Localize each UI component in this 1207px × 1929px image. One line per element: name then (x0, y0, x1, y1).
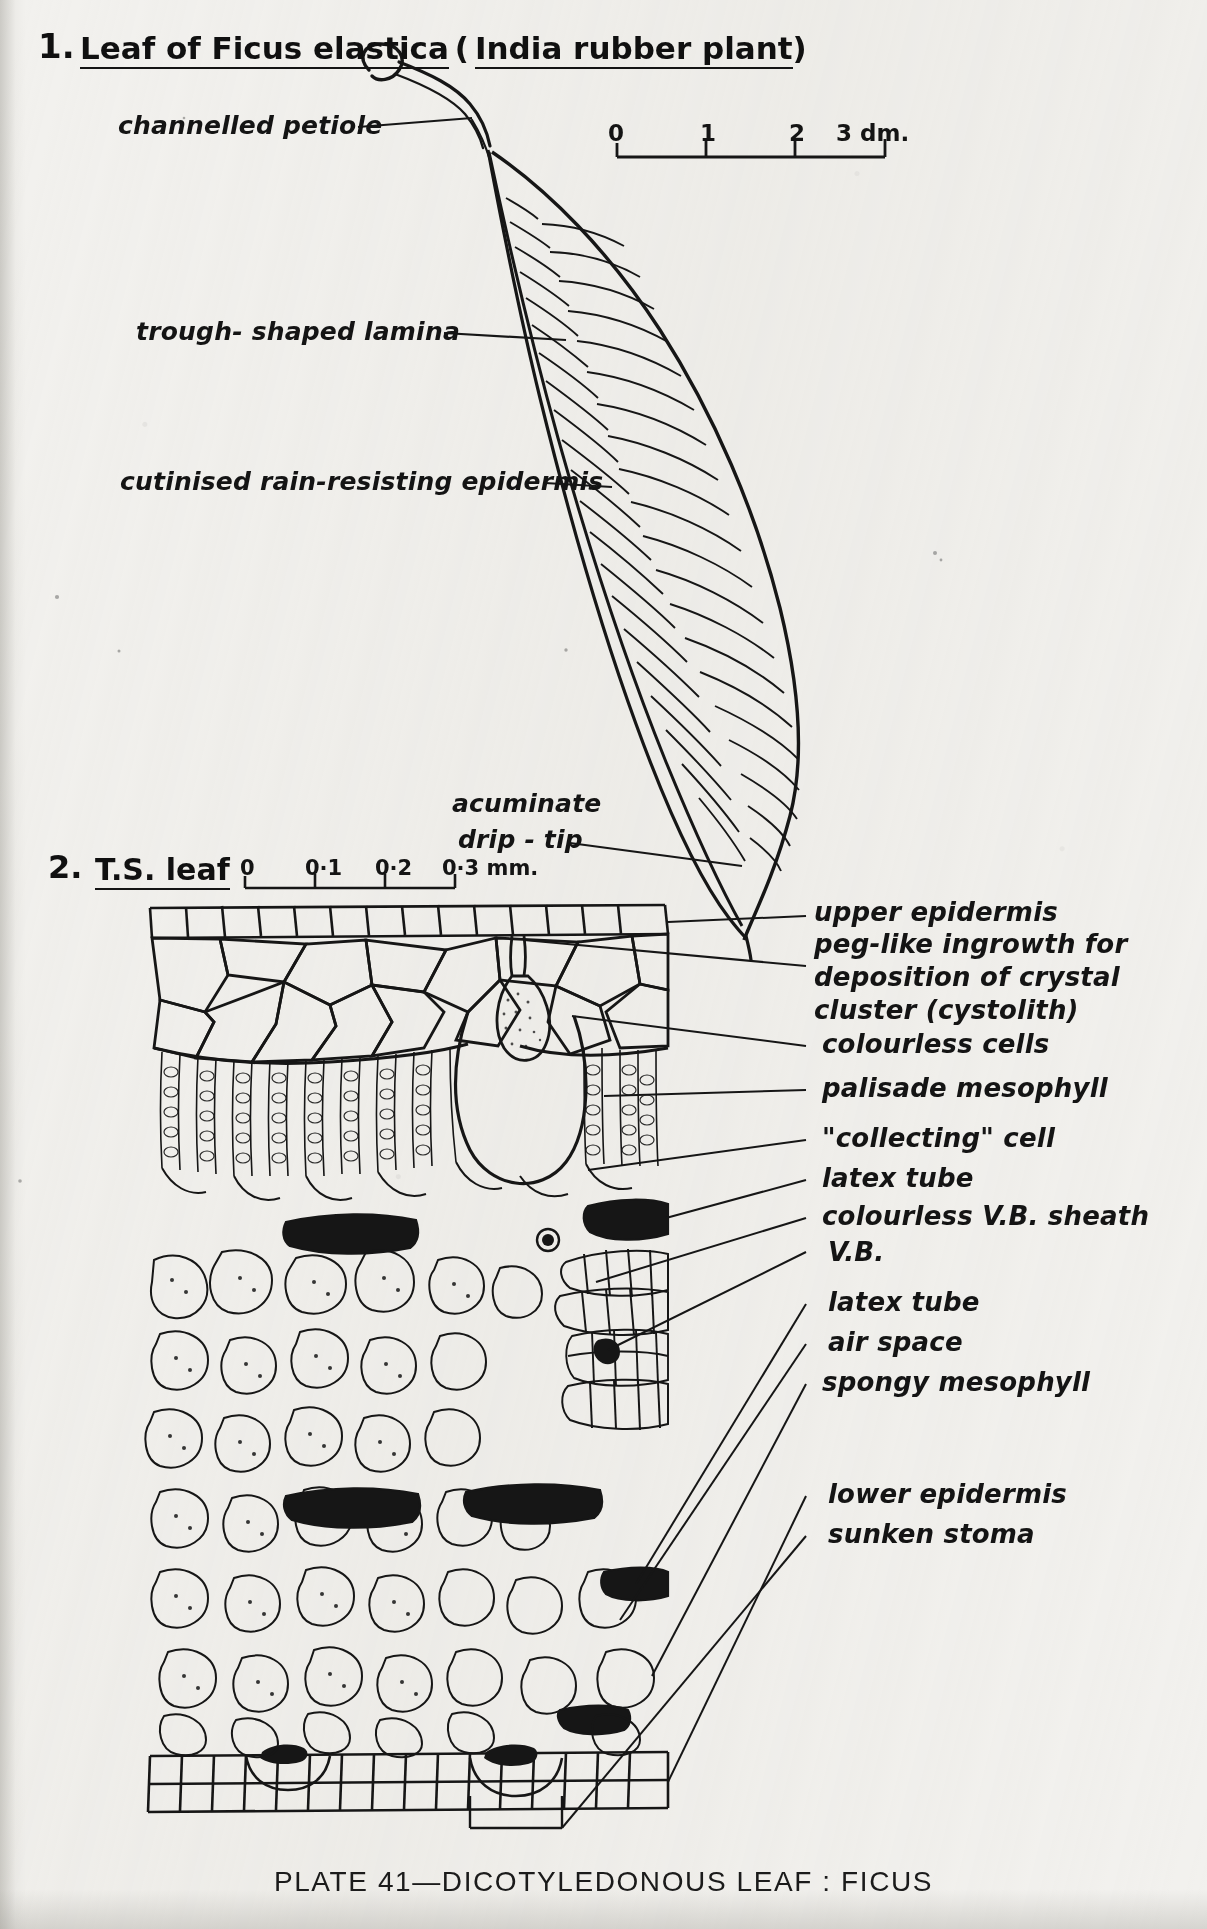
leader-peg-like-ingrowth (524, 940, 806, 966)
leader-air-space (620, 1344, 806, 1620)
label-upper-epidermis: upper epidermis (814, 898, 1058, 927)
label-colourless-cells: colourless cells (822, 1030, 1049, 1059)
vb-core (566, 1330, 668, 1386)
page-crease (0, 0, 26, 1929)
figure1-title-common: India rubber plant (475, 30, 793, 69)
label-drip-tip: drip - tip (458, 826, 583, 854)
label-palisade-mesophyll: palisade mesophyll (822, 1074, 1108, 1103)
label-acuminate: acuminate (452, 790, 601, 818)
vb-sheath-cells (555, 1249, 668, 1335)
figure1-title-species: Leaf of Ficus elastica (80, 30, 449, 69)
figure1-scale-tick-1: 1 (700, 120, 716, 146)
latex-tube-upper-shape (283, 1214, 418, 1254)
label-channelled-petiole: channelled petiole (118, 112, 382, 140)
leader-latex-tube-lower (636, 1304, 806, 1584)
figure2-title: T.S. leaf (95, 852, 230, 887)
figure1-scale-tick-2: 2 (789, 120, 805, 146)
colourless-cells-layer (152, 934, 668, 1062)
plate-page: 1. Leaf of Ficus elastica(India rubber p… (0, 0, 1207, 1929)
leader-sunken-stoma (562, 1536, 806, 1828)
crystal-cell (537, 1229, 559, 1251)
figure1-title: Leaf of Ficus elastica(India rubber plan… (80, 30, 807, 66)
label-peg-like-ingrowth-3: cluster (cystolith) (814, 996, 1079, 1025)
figure1-scale-tick-3: 3 dm. (836, 120, 909, 146)
collecting-cells (162, 1162, 632, 1200)
label-vb: V.B. (828, 1238, 884, 1267)
figure2-title-text: T.S. leaf (95, 852, 230, 890)
label-lower-epidermis: lower epidermis (828, 1480, 1067, 1509)
colourless-layer-base (154, 1044, 668, 1063)
leader-upper-epidermis (668, 916, 806, 922)
figure2-scale-tick-0: 0 (240, 856, 255, 880)
lamina-veins-outer (542, 224, 799, 871)
leader-collecting-cell (588, 1140, 806, 1170)
vb-lower-sheath (562, 1380, 668, 1430)
leader-colourless-cells (572, 1016, 806, 1046)
label-cutinised-epidermis: cutinised rain-resisting epidermis (120, 468, 603, 496)
figure2-scale-tick-2: 0·2 (375, 856, 412, 880)
leader-spongy-mesophyll (652, 1384, 806, 1676)
palisade-chloroplasts (164, 1065, 654, 1163)
leader-latex-tube-upper (666, 1180, 806, 1218)
cystolith-structure (456, 936, 586, 1184)
figure2-number: 2. (48, 848, 82, 886)
figure1-title-paren-close: ) (793, 30, 807, 66)
label-latex-tube-upper: latex tube (822, 1164, 974, 1193)
latex-tube-lower-shapes (284, 1484, 668, 1734)
figure2-scale-tick-3: 0·3 mm. (442, 856, 538, 880)
label-sunken-stoma: sunken stoma (828, 1520, 1035, 1549)
vascular-bundle (555, 1249, 668, 1430)
leader-vb (608, 1252, 806, 1350)
label-air-space: air space (828, 1328, 963, 1357)
label-peg-like-ingrowth-1: peg-like ingrowth for (814, 930, 1127, 959)
upper-epidermis-cells (150, 905, 668, 938)
label-spongy-mesophyll: spongy mesophyll (822, 1368, 1090, 1397)
label-colourless-vb-sheath: colourless V.B. sheath (822, 1202, 1149, 1231)
leader-palisade-mesophyll (604, 1090, 806, 1096)
leader-acuminate-drip-tip (570, 843, 742, 866)
label-peg-like-ingrowth-2: deposition of crystal (814, 963, 1120, 992)
label-collecting-cell: "collecting" cell (822, 1124, 1055, 1153)
spongy-stipple (168, 1276, 470, 1696)
lower-spongy-cells (160, 1712, 640, 1757)
figure2-scale-tick-1: 0·1 (305, 856, 342, 880)
leader-trough-shaped-lamina (444, 333, 566, 340)
spongy-mesophyll-layer (145, 1250, 654, 1713)
sunken-stomata (246, 1745, 562, 1828)
figure2-leader-lines (524, 916, 806, 1828)
figure2-scale-bar (245, 874, 455, 888)
label-latex-tube-lower: latex tube (828, 1288, 980, 1317)
figure1-title-paren-open: ( (449, 30, 475, 66)
palisade-mesophyll-layer (161, 1048, 659, 1176)
scan-speckles (18, 117, 942, 1183)
plate-caption: PLATE 41—DICOTYLEDONOUS LEAF : FICUS (0, 1866, 1207, 1898)
figure1-scale-tick-0: 0 (608, 120, 624, 146)
figure1-number: 1. (38, 26, 75, 66)
latex-tube-upper-right-shape (584, 1200, 668, 1240)
leader-colourless-vb-sheath (596, 1218, 806, 1282)
label-trough-shaped-lamina: trough- shaped lamina (136, 318, 460, 346)
lamina-veins-inner (506, 198, 745, 861)
leader-lower-epidermis (668, 1496, 806, 1782)
lower-epidermis-cells (148, 1752, 668, 1812)
